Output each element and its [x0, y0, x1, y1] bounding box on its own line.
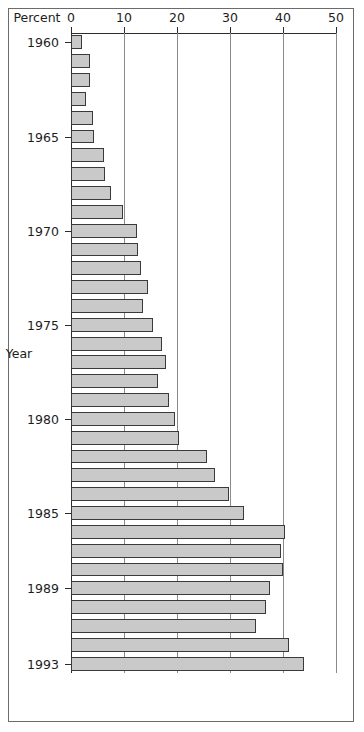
figure: 01020304050 1960196519701975198019851989…: [16, 15, 346, 715]
figure-frame: 01020304050 1960196519701975198019851989…: [8, 8, 354, 722]
year-label-1985: 1985: [27, 506, 59, 521]
bar-1965: [71, 130, 94, 144]
bar-1974: [71, 299, 143, 313]
year-tick-1965: [65, 137, 71, 138]
bar-1966: [71, 148, 104, 162]
gridline-50: [336, 33, 337, 673]
bar-1964: [71, 111, 93, 125]
percent-tick-20: [177, 27, 178, 33]
year-label-1975: 1975: [27, 317, 59, 332]
percent-label-20: 20: [169, 10, 185, 25]
gridline-20: [177, 33, 178, 673]
percent-label-30: 30: [222, 10, 238, 25]
plot-area: [71, 33, 336, 673]
bar-1985: [71, 506, 244, 520]
bar-1989: [71, 581, 270, 595]
year-label-1989: 1989: [27, 581, 59, 596]
gridline-10: [124, 33, 125, 673]
year-axis-title: Year: [6, 346, 32, 361]
percent-tick-0: [71, 27, 72, 33]
year-tick-1960: [65, 42, 71, 43]
percent-tick-30: [230, 27, 231, 33]
percent-axis-title: Percent: [13, 10, 60, 25]
percent-tick-40: [283, 27, 284, 33]
bar-1963: [71, 92, 86, 106]
percent-label-50: 50: [328, 10, 344, 25]
bar-1960: [71, 35, 82, 49]
bar-1983: [71, 468, 215, 482]
bar-1981: [71, 431, 179, 445]
bar-1978: [71, 374, 158, 388]
bar-1972: [71, 261, 141, 275]
bar-1961: [71, 54, 90, 68]
bar-1970: [71, 224, 137, 238]
percent-label-10: 10: [116, 10, 132, 25]
gridline-30: [230, 33, 231, 673]
rotated-figure-container: 01020304050 1960196519701975198019851989…: [16, 15, 346, 715]
year-tick-1975: [65, 325, 71, 326]
bar-1992: [71, 638, 289, 652]
year-label-1993: 1993: [27, 656, 59, 671]
year-label-1970: 1970: [27, 223, 59, 238]
bar-1990: [71, 600, 266, 614]
bar-1962: [71, 73, 90, 87]
bar-1987: [71, 544, 281, 558]
year-label-1965: 1965: [27, 129, 59, 144]
bar-1975: [71, 318, 153, 332]
year-tick-1993: [65, 664, 71, 665]
bar-1973: [71, 280, 148, 294]
bar-1980: [71, 412, 175, 426]
year-label-1960: 1960: [27, 35, 59, 50]
year-tick-1989: [65, 588, 71, 589]
bar-1993: [71, 657, 304, 671]
percent-axis-line: [71, 33, 336, 34]
year-tick-1980: [65, 419, 71, 420]
bar-1986: [71, 525, 285, 539]
bar-1991: [71, 619, 257, 633]
bar-1971: [71, 243, 138, 257]
bar-1967: [71, 167, 105, 181]
year-label-1980: 1980: [27, 411, 59, 426]
bar-1982: [71, 450, 207, 464]
bar-1988: [71, 563, 283, 577]
bar-1968: [71, 186, 111, 200]
bar-1984: [71, 487, 229, 501]
bar-1977: [71, 355, 166, 369]
percent-label-0: 0: [67, 10, 75, 25]
gridline-40: [283, 33, 284, 673]
percent-tick-10: [124, 27, 125, 33]
year-tick-1985: [65, 513, 71, 514]
bar-1976: [71, 337, 162, 351]
percent-tick-50: [336, 27, 337, 33]
bar-1969: [71, 205, 123, 219]
bar-1979: [71, 393, 169, 407]
percent-label-40: 40: [275, 10, 291, 25]
year-tick-1970: [65, 231, 71, 232]
